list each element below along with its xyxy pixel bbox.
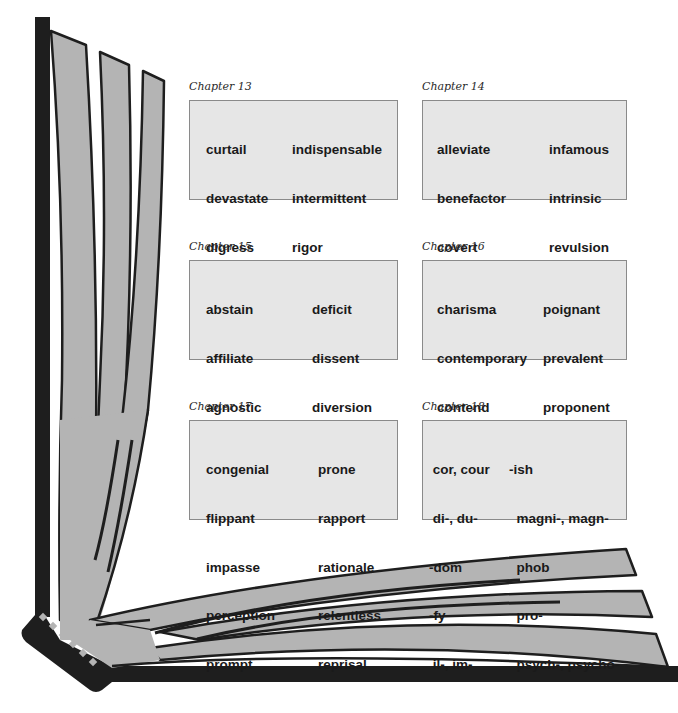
word-part: -ish [509,462,619,478]
vertical-pages [51,31,164,640]
word-part: di-, du- [429,511,490,527]
vocab-word: diversion [312,400,381,416]
vocab-word: prone [318,462,381,478]
word-part: phob [509,560,619,576]
vocab-word: dissent [312,351,381,367]
vocab-word: flippant [206,511,275,527]
word-part: il-, im- [429,657,490,673]
vocab-word: benefactor [437,191,506,207]
word-list-box: curtail devastate digress incentive inco… [189,100,398,200]
vocab-word: rigor [292,240,382,256]
word-list-box: charisma contemporary contend conversely… [422,260,627,360]
vocab-word: poignant [543,302,610,318]
chapter-title: Chapter 16 [422,240,485,253]
vocab-word: revulsion [549,240,611,256]
vocab-word: intrinsic [549,191,611,207]
vocab-word: infamous [549,142,611,158]
word-part: -fy [429,608,490,624]
vocab-word: devastate [206,191,280,207]
book-spine-vertical [35,17,50,617]
vocab-word: rapport [318,511,381,527]
vocab-word: proponent [543,400,610,416]
word-column-left: congenial flippant impasse perception pr… [206,430,275,705]
word-column-right: prone rapport rationale relentless repri… [318,430,381,705]
vocab-word: curtail [206,142,280,158]
vocab-word: abstain [206,302,277,318]
word-list-box: cor, cour di-, du- -dom -fy il-, im- -is… [422,420,627,520]
chapter-title: Chapter 13 [189,80,252,93]
word-column-right: -ish magni-, magn- phob pro- psych-, psy… [509,430,619,705]
word-column-left: cor, cour di-, du- -dom -fy il-, im- [429,430,490,705]
chapter-title: Chapter 18 [422,400,485,413]
vocab-word: impasse [206,560,275,576]
vocab-word: rationale [318,560,381,576]
word-part: -dom [429,560,490,576]
vocab-word: reprisal [318,657,381,673]
vocab-word: indispensable [292,142,382,158]
word-list-box: alleviate benefactor covert cynic demise… [422,100,627,200]
vocab-word: contemporary [437,351,527,367]
word-part: cor, cour [429,462,490,478]
vocab-word: prevalent [543,351,610,367]
vocab-word: affiliate [206,351,277,367]
vocab-word: relentless [318,608,381,624]
vocab-word: deficit [312,302,381,318]
vocab-word: intermittent [292,191,382,207]
word-list-box: abstain affiliate agnostic aspire benevo… [189,260,398,360]
word-part: pro- [509,608,619,624]
chapter-title: Chapter 17 [189,400,252,413]
chapter-title: Chapter 14 [422,80,485,93]
chapter-title: Chapter 15 [189,240,252,253]
word-list-box: congenial flippant impasse perception pr… [189,420,398,520]
vocab-word: prompt [206,657,275,673]
word-part: psych-, psycho- [509,657,619,673]
vocab-word: charisma [437,302,527,318]
vocab-word: alleviate [437,142,506,158]
vocab-word: perception [206,608,275,624]
vocab-word: congenial [206,462,275,478]
word-part: magni-, magn- [509,511,619,527]
